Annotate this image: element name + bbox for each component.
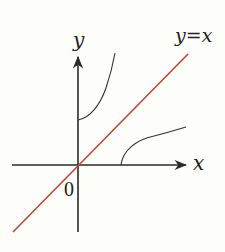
graph-diagram: y y=x x 0 bbox=[0, 0, 225, 252]
origin-label: 0 bbox=[64, 178, 74, 200]
x-axis-label: x bbox=[193, 151, 204, 175]
lower-curve bbox=[121, 127, 186, 165]
upper-curve bbox=[78, 53, 115, 120]
line-y-equals-x bbox=[13, 54, 188, 232]
line-label: y=x bbox=[174, 24, 213, 46]
y-axis-label: y bbox=[72, 28, 85, 52]
